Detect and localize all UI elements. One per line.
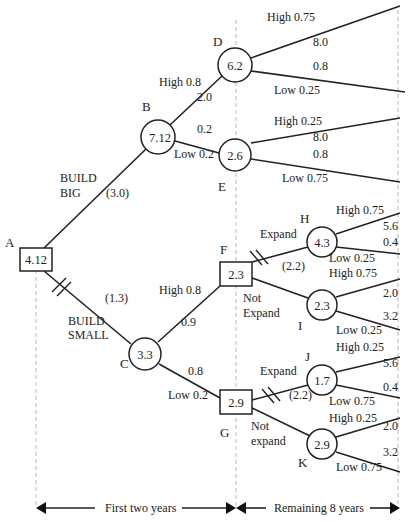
diagram-label: 6.2: [227, 59, 243, 73]
diagram-label: Low 0.25: [336, 323, 382, 337]
diagram-label: 0.8: [313, 147, 328, 161]
diagram-label: 7.12: [149, 131, 171, 145]
diagram-label: BUILD: [68, 314, 105, 328]
diagram-label: High 0.25: [329, 411, 377, 425]
node-d: 6.2 D: [213, 34, 252, 82]
diagram-label: K: [298, 455, 308, 470]
diagram-label: Expand: [243, 306, 280, 320]
diagram-label: 8.0: [313, 35, 328, 49]
diagram-label: Low 0.75: [336, 460, 382, 474]
diagram-label: Not: [243, 291, 262, 305]
node-b: 7.12 B: [141, 99, 175, 154]
diagram-label: Expand: [260, 364, 297, 378]
diagram-label: I: [298, 318, 302, 333]
diagram-label: 0.2: [197, 122, 212, 136]
decision-tree-diagram: 4.12 A 7.12 B 3.3 C 6.2 D 2.6 E 2.3 F 2.…: [0, 0, 408, 522]
arrow-right-icon: [226, 502, 236, 514]
diagram-label: High 0.25: [336, 340, 384, 354]
diagram-label: 2.9: [314, 438, 330, 452]
diagram-label: (2.2): [289, 388, 312, 402]
diagram-label: 8.0: [313, 130, 328, 144]
diagram-label: Not: [251, 419, 270, 433]
diagram-label: Low 0.2: [168, 388, 208, 402]
diagram-label: Low 0.25: [329, 251, 375, 265]
diagram-label: (3.0): [106, 186, 129, 200]
diagram-label: F: [220, 242, 227, 257]
diagram-label: C: [120, 356, 129, 371]
diagram-label: H: [300, 211, 309, 226]
diagram-label: J: [305, 349, 310, 364]
diagram-label: High 0.8: [159, 75, 201, 89]
node-a: 4.12 A: [5, 235, 52, 271]
diagram-label: High 0.75: [267, 10, 315, 24]
diagram-label: 2.0: [383, 286, 398, 300]
diagram-label: 2.0: [383, 419, 398, 433]
period-remaining: Remaining 8 years: [274, 501, 364, 515]
diagram-label: 2.3: [228, 268, 244, 282]
diagram-label: Low 0.75: [282, 171, 328, 185]
diagram-label: Expand: [260, 227, 297, 241]
diagram-label: Low 0.75: [329, 394, 375, 408]
node-k: 2.9 K: [298, 429, 337, 470]
diagram-label: 2.0: [197, 90, 212, 104]
diagram-label: G: [220, 425, 229, 440]
diagram-label: 0.8: [188, 364, 203, 378]
diagram-label: (2.2): [282, 259, 305, 273]
diagram-label: Low 0.25: [274, 83, 320, 97]
diagram-label: 5.6: [383, 219, 398, 233]
diagram-label: 0.9: [181, 315, 196, 329]
diagram-label: High 0.25: [274, 114, 322, 128]
diagram-label: D: [213, 34, 222, 49]
diagram-label: BUILD: [60, 171, 97, 185]
diagram-label: High 0.75: [329, 266, 377, 280]
diagram-label: (1.3): [105, 291, 128, 305]
diagram-label: 0.4: [383, 235, 398, 249]
diagram-label: 2.3: [314, 299, 330, 313]
diagram-label: 3.2: [383, 445, 398, 459]
diagram-label: BIG: [60, 186, 81, 200]
diagram-label: SMALL: [68, 328, 109, 342]
diagram-label: 2.6: [227, 149, 243, 163]
diagram-label: 2.9: [228, 396, 244, 410]
diagram-label: 0.8: [313, 59, 328, 73]
diagram-label: 0.4: [383, 380, 398, 394]
timeline: First two years Remaining 8 years: [36, 501, 400, 515]
diagram-label: 5.6: [383, 356, 398, 370]
diagram-label: 3.3: [137, 348, 153, 362]
node-f: 2.3 F: [220, 242, 252, 286]
diagram-label: High 0.75: [336, 203, 384, 217]
diagram-label: E: [218, 179, 226, 194]
diagram-label: High 0.8: [159, 283, 201, 297]
diagram-label: 1.7: [314, 374, 330, 388]
node-c: 3.3 C: [120, 338, 161, 371]
diagram-label: 4.3: [314, 236, 330, 250]
diagram-label: B: [142, 99, 151, 114]
diagram-label: Low 0.2: [174, 147, 214, 161]
arrow-left-icon: [36, 502, 46, 514]
diagram-label: 3.2: [383, 309, 398, 323]
diagram-label: 4.12: [25, 253, 47, 267]
diagram-label: A: [5, 235, 15, 250]
node-e: 2.6 E: [218, 139, 251, 194]
diagram-label: expand: [251, 434, 286, 448]
period-first: First two years: [105, 501, 177, 515]
